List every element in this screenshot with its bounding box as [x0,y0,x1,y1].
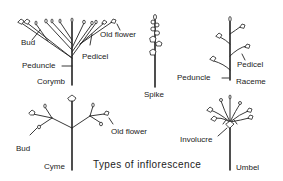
umbel-drawing [207,95,253,170]
spike-name-label: Spike [144,91,164,99]
corymb-name-label: Corymb [37,78,65,86]
figure-title: Types of inflorescence [93,160,201,170]
corymb-pedicel-label: Pedicel [82,53,108,61]
cyme-bud-label: Bud [16,145,30,153]
diagram-drawing [0,0,283,181]
spike-drawing [150,15,162,88]
umbel-involucre-label: Involucre [180,136,212,144]
raceme-peduncle-label: Peduncle [177,74,210,82]
cyme-name-label: Cyme [44,163,65,171]
cyme-old-flower-label: Old flower [111,128,147,136]
corymb-bud-label: Bud [21,39,35,47]
corymb-old-flower-label: Old flower [100,31,136,39]
raceme-name-label: Raceme [236,78,266,86]
raceme-pedicel-label: Pedicel [237,61,263,69]
umbel-name-label: Umbel [236,164,259,172]
raceme-drawing [210,17,250,81]
corymb-peduncle-label: Peduncle [22,62,55,70]
inflorescence-diagram: Bud Old flower Pedicel Peduncle Corymb S… [0,0,283,181]
